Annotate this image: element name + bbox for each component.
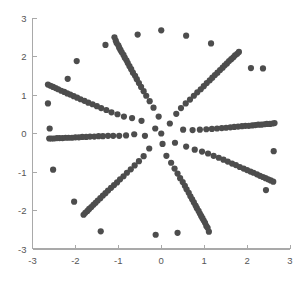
data-point (114, 111, 120, 117)
data-point (102, 42, 108, 48)
data-point (208, 40, 214, 46)
y-tick-label: 2 (21, 51, 26, 62)
x-tick-label: 1 (202, 255, 207, 266)
data-point (192, 147, 198, 153)
data-point (158, 130, 164, 136)
data-point (163, 153, 169, 159)
data-point (116, 133, 122, 139)
data-point (74, 58, 80, 64)
x-tick-label: -3 (28, 255, 36, 266)
data-point (203, 126, 209, 132)
data-point (45, 82, 51, 88)
data-point (271, 148, 277, 154)
data-point (47, 125, 53, 131)
plot-canvas: -3-2-10123-3-2-10123 (0, 0, 304, 284)
data-point (197, 127, 203, 133)
data-point (173, 111, 179, 117)
x-tick-label: 3 (287, 255, 292, 266)
y-tick-label: 1 (21, 90, 26, 101)
data-point (50, 167, 56, 173)
data-point (153, 232, 159, 238)
data-point (189, 127, 195, 133)
data-point (129, 115, 135, 121)
data-point (174, 230, 180, 236)
data-point (206, 229, 212, 235)
data-point (152, 125, 158, 131)
data-point (178, 105, 184, 111)
y-tick-label: 0 (21, 128, 26, 139)
data-point (263, 187, 269, 193)
data-point (131, 131, 137, 137)
data-point (260, 65, 266, 71)
data-point (142, 133, 148, 139)
data-point (65, 76, 71, 82)
data-point (71, 199, 77, 205)
data-point (167, 120, 173, 126)
data-point (248, 65, 254, 71)
data-point (158, 27, 164, 33)
data-point (183, 33, 189, 39)
data-point (141, 153, 147, 159)
data-point (183, 143, 189, 149)
data-point (150, 105, 156, 111)
scatter-plot-figure: -3-2-10123-3-2-10123 (0, 0, 304, 284)
data-point (156, 113, 162, 119)
x-tick-label: -2 (71, 255, 79, 266)
y-tick-label: -3 (18, 244, 26, 255)
data-points-group (45, 27, 278, 238)
y-tick-label: -1 (18, 167, 26, 178)
x-tick-label: -1 (114, 255, 122, 266)
data-point (138, 118, 144, 124)
data-point (147, 98, 153, 104)
data-point (135, 31, 141, 37)
data-point (168, 160, 174, 166)
data-point (205, 150, 211, 156)
data-point (180, 127, 186, 133)
data-point (45, 100, 51, 106)
data-point (236, 49, 242, 55)
data-point (98, 228, 104, 234)
data-point (172, 140, 178, 146)
y-tick-label: -2 (18, 205, 26, 216)
data-point (123, 132, 129, 138)
data-point (270, 179, 276, 185)
data-point (80, 212, 86, 218)
x-tick-label: 2 (244, 255, 249, 266)
x-tick-label: 0 (159, 255, 164, 266)
y-tick-label: 3 (21, 13, 26, 24)
data-point (111, 34, 117, 40)
data-point (46, 135, 52, 141)
data-point (271, 120, 277, 126)
data-point (146, 145, 152, 151)
data-point (199, 148, 205, 154)
data-point (121, 113, 127, 119)
data-point (159, 141, 165, 147)
